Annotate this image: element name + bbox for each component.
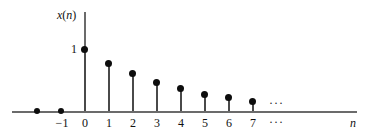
- x-axis-line: [12, 111, 357, 113]
- stem-dot-n-5: [201, 91, 208, 98]
- x-tick-label-5: 5: [195, 117, 215, 129]
- stem-line-n-3: [156, 82, 158, 111]
- stem-dot-n-4: [177, 85, 184, 92]
- stem-dot-n-1: [105, 60, 112, 67]
- ellipsis-above-axis: ···: [269, 99, 284, 107]
- stem-dot-n-minus-2: [34, 108, 40, 114]
- stem-line-n-1: [108, 63, 110, 111]
- x-tick-label-1: 1: [99, 117, 119, 129]
- x-tick-label-4: 4: [171, 117, 191, 129]
- stem-line-n-0: [84, 49, 86, 111]
- y-tick-label-1: 1: [71, 43, 77, 55]
- stem-line-n-4: [180, 89, 182, 111]
- stem-dot-n-6: [225, 94, 232, 101]
- ellipsis-below-axis: ···: [269, 118, 284, 126]
- stem-dot-n-7: [249, 98, 256, 105]
- stem-dot-n-3: [153, 79, 160, 86]
- stem-dot-n-minus-1: [58, 108, 64, 114]
- y-axis-label: x(n): [57, 9, 76, 21]
- x-tick-label-2: 2: [123, 117, 143, 129]
- x-axis-label: n: [350, 117, 356, 129]
- stem-dot-n-0: [81, 46, 88, 53]
- x-tick-label-0: 0: [75, 117, 95, 129]
- y-axis-label-close-paren: ): [72, 8, 76, 22]
- x-tick-label-6: 6: [219, 117, 239, 129]
- x-tick-label-minus-1: −1: [52, 117, 72, 129]
- stem-dot-n-2: [129, 70, 136, 77]
- stem-plot-figure: x(n) n 1 −1 0 1 2 3 4 5 6 7 ··· ···: [0, 0, 371, 135]
- stem-line-n-2: [132, 74, 134, 111]
- x-tick-label-7: 7: [243, 117, 263, 129]
- x-tick-label-3: 3: [147, 117, 167, 129]
